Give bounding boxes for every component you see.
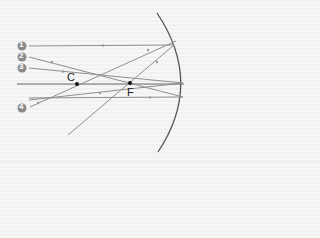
ray-badge-4: 4 [19,102,23,111]
point-label-f: F [127,86,134,98]
ray-badge-3: 3 [19,62,23,71]
ray-diagram [0,0,201,162]
center-of-curvature-point [75,82,79,86]
ray-badge-1: 1 [19,40,23,49]
focal-point [128,81,132,85]
ray-3-incident [29,68,183,83]
point-label-c: C [67,71,75,83]
ray-1-incident [29,45,174,46]
ray-badge-2: 2 [19,51,23,60]
